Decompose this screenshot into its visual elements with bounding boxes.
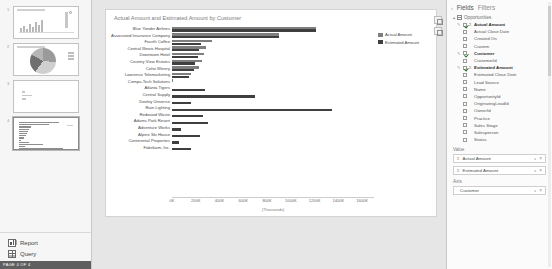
page-thumbnail-3[interactable] [13, 80, 79, 113]
field-row[interactable]: ✎ΣEstimated Amount [453, 64, 548, 71]
bar-estimated-amount[interactable] [172, 43, 201, 45]
bar-estimated-amount[interactable] [172, 56, 198, 58]
edit-pencil-icon[interactable]: ✎ [457, 21, 461, 28]
bar-estimated-amount[interactable] [172, 148, 191, 150]
table-node-opportunities[interactable]: ▴ Opportunities [453, 15, 548, 20]
bar-row[interactable] [172, 112, 374, 119]
canvas-scrollbar-thumb[interactable] [548, 6, 551, 76]
bar-estimated-amount[interactable] [172, 76, 189, 78]
page-thumbnail-1[interactable] [13, 6, 79, 39]
chevron-down-icon[interactable]: ˅ [534, 188, 536, 193]
page-thumbnail-2[interactable] [13, 43, 79, 76]
bar-estimated-amount[interactable] [172, 115, 203, 117]
field-row[interactable]: Lead Source [453, 79, 548, 86]
edit-pencil-icon[interactable]: ✎ [457, 50, 461, 57]
chevron-down-icon[interactable]: ˅ [534, 168, 536, 173]
field-checkbox[interactable] [463, 116, 467, 120]
bar-estimated-amount[interactable] [172, 89, 205, 91]
collapse-pane-chevron-icon[interactable]: › [451, 5, 453, 11]
page-thumbnail-item[interactable]: 2 [7, 43, 87, 76]
field-row[interactable]: OwnerId [453, 107, 548, 114]
bar-row[interactable] [172, 132, 374, 139]
field-row[interactable]: Practice [453, 114, 548, 121]
page-thumbnail-item[interactable]: 3 [7, 80, 87, 113]
filter-icon[interactable] [434, 27, 442, 35]
page-thumbnail-list[interactable]: 1 2 3 [0, 0, 91, 232]
field-row[interactable]: Name [453, 86, 548, 93]
field-checkbox[interactable] [463, 80, 467, 84]
field-checkbox[interactable] [463, 94, 467, 98]
bar-row[interactable] [172, 125, 374, 132]
field-row[interactable]: Estimated Close Date [453, 71, 548, 78]
bar-estimated-amount[interactable] [172, 128, 181, 130]
field-row[interactable]: Custom [453, 43, 548, 50]
remove-field-icon[interactable]: × [539, 156, 542, 161]
fields-list[interactable]: ▴ Opportunities ✎ΣActual AmountActual Cl… [447, 14, 552, 143]
bar-estimated-amount[interactable] [172, 141, 179, 143]
field-checkbox[interactable] [463, 87, 467, 91]
bar-estimated-amount[interactable] [172, 36, 279, 38]
bar-row[interactable] [172, 26, 374, 33]
legend-item[interactable]: Actual Amount [378, 32, 432, 37]
canvas-scrollbar[interactable] [548, 2, 551, 267]
remove-field-icon[interactable]: × [539, 168, 542, 173]
tab-filters[interactable]: Filters [478, 4, 495, 11]
bar-row[interactable] [172, 46, 374, 53]
bar-row[interactable] [172, 138, 374, 145]
field-row[interactable]: Actual Close Date [453, 28, 548, 35]
bar-estimated-amount[interactable] [172, 95, 255, 97]
field-row[interactable]: ✎Customer [453, 50, 548, 57]
field-row[interactable]: CustomerId [453, 57, 548, 64]
bar-row[interactable] [172, 118, 374, 125]
bar-row[interactable] [172, 33, 374, 40]
report-view-button[interactable]: Report [8, 237, 91, 248]
page-thumbnail-4[interactable] [13, 117, 79, 150]
field-checkbox[interactable] [463, 123, 467, 127]
bar-row[interactable] [172, 72, 374, 79]
edit-pencil-icon[interactable]: ✎ [457, 64, 461, 71]
chevron-down-icon[interactable]: ˅ [534, 156, 536, 161]
bar-row[interactable] [172, 92, 374, 99]
field-row[interactable]: Created On [453, 35, 548, 42]
field-row[interactable]: Sales Stage [453, 122, 548, 129]
focus-mode-icon[interactable] [434, 16, 442, 24]
bar-estimated-amount[interactable] [172, 135, 200, 137]
well-chip[interactable]: ΣActual Amount˅× [453, 154, 546, 163]
chart-legend[interactable]: Actual AmountEstimated Amount [378, 32, 432, 47]
field-checkbox[interactable] [463, 51, 467, 55]
field-row[interactable]: Status [453, 136, 548, 143]
bar-estimated-amount[interactable] [172, 102, 191, 104]
field-row[interactable]: ✎ΣActual Amount [453, 21, 548, 28]
well-chip[interactable]: Customer˅× [453, 186, 546, 195]
field-checkbox[interactable] [463, 138, 467, 142]
bar-row[interactable] [172, 105, 374, 112]
bar-row[interactable] [172, 59, 374, 66]
page-thumbnail-item[interactable]: 1 [7, 6, 87, 39]
field-checkbox[interactable] [463, 30, 467, 34]
expand-chevron-icon[interactable]: ▴ [453, 15, 455, 20]
field-checkbox[interactable] [463, 66, 467, 70]
well-chip[interactable]: ΣEstimated Amount˅× [453, 166, 546, 175]
field-checkbox[interactable] [463, 23, 467, 27]
bar-row[interactable] [172, 79, 374, 86]
bar-estimated-amount[interactable] [172, 109, 332, 111]
remove-field-icon[interactable]: × [539, 188, 542, 193]
field-row[interactable]: OpportunityId [453, 93, 548, 100]
bar-actual-amount[interactable] [172, 79, 173, 81]
bar-row[interactable] [172, 39, 374, 46]
bar-estimated-amount[interactable] [172, 62, 195, 64]
chart-visual[interactable]: Actual Amount and Estimated Amount by Cu… [110, 14, 432, 212]
bar-row[interactable] [172, 145, 374, 152]
field-checkbox[interactable] [463, 44, 467, 48]
field-checkbox[interactable] [463, 59, 467, 63]
bar-estimated-amount[interactable] [172, 29, 316, 31]
field-checkbox[interactable] [463, 73, 467, 77]
field-checkbox[interactable] [463, 102, 467, 106]
bar-estimated-amount[interactable] [172, 49, 199, 51]
field-row[interactable]: Salesperson [453, 129, 548, 136]
bar-estimated-amount[interactable] [172, 69, 194, 71]
bar-estimated-amount[interactable] [172, 122, 208, 124]
tab-fields[interactable]: Fields [457, 4, 474, 11]
report-page-canvas[interactable]: Actual Amount and Estimated Amount by Cu… [105, 9, 437, 217]
bar-row[interactable] [172, 66, 374, 73]
